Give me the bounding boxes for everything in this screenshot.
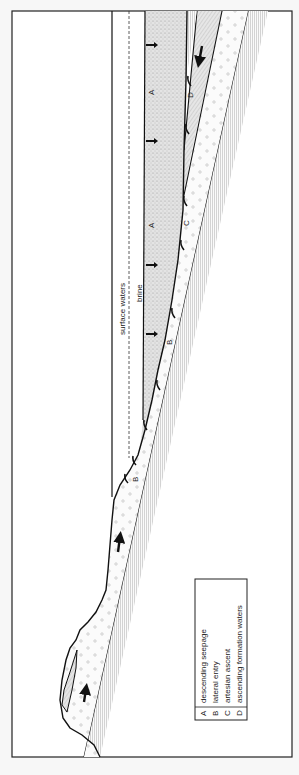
brine-label: brine [135,284,144,302]
flow-label-b-mid: B [165,340,174,345]
legend-text-a: descending seepage [199,629,208,703]
flow-label-d: D [186,92,195,98]
legend-key-b: B [211,711,220,716]
legend-text-d: ascending formation waters [235,605,244,703]
legend-text-c: artesian ascent [223,648,232,703]
flow-label-b-shore: B [131,477,140,482]
flow-label-c: C [182,220,191,226]
legend: A descending seepage B lateral entry C a… [195,579,247,720]
legend-key-a: A [199,710,208,716]
legend-key-c: C [223,710,232,716]
geological-cross-section: surface waters brine A A D C B B A desce… [0,0,299,775]
surface-waters-label: surface waters [118,283,127,335]
flow-label-a-top: A [147,89,156,95]
legend-key-d: D [235,710,244,716]
flow-label-a-mid: A [147,222,156,228]
legend-text-b: lateral entry [211,661,220,703]
